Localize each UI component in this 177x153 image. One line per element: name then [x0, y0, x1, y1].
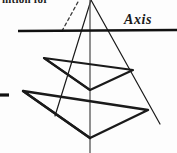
axis-label: Axis [124, 13, 152, 27]
lower-conic-section [23, 91, 148, 138]
geometry-figure: nition for Axis [0, 0, 177, 153]
horizontal-axis-line [18, 30, 177, 31]
lower-left-chord [23, 91, 90, 138]
dashed-construction-line [62, 0, 79, 31]
upper-conic-section [44, 58, 133, 90]
